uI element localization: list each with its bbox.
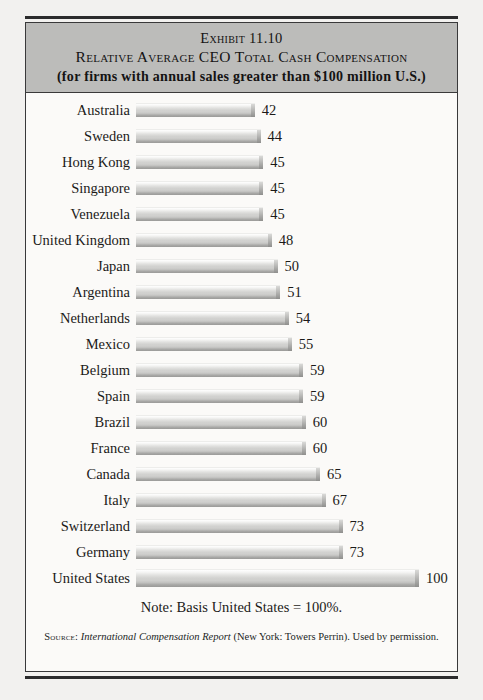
bar (136, 441, 306, 455)
bar-value-label: 44 (261, 124, 283, 148)
bar (136, 285, 280, 299)
bar-category-label: Switzerland (26, 514, 130, 538)
bar-row: Mexico55 (26, 332, 457, 356)
bar-row: Japan50 (26, 254, 457, 278)
bar-row: Canada65 (26, 462, 457, 486)
source-publisher: (New York: Towers Perrin). Used by permi… (233, 631, 438, 642)
bar-value-label: 73 (343, 540, 365, 564)
bar-value-label: 51 (280, 280, 302, 304)
bar-value-label: 59 (303, 384, 325, 408)
exhibit-title: Relative Average CEO Total Cash Compensa… (26, 47, 457, 66)
exhibit-number: Exhibit 11.10 (26, 29, 457, 47)
bar-row: Venezuela45 (26, 202, 457, 226)
bar-row: France60 (26, 436, 457, 460)
exhibit-title-band: Exhibit 11.10 Relative Average CEO Total… (26, 23, 457, 93)
bottom-rule (25, 676, 458, 679)
bar-row: Brazil60 (26, 410, 457, 434)
bar (136, 155, 263, 169)
bar-category-label: Japan (26, 254, 130, 278)
bar-row: Argentina51 (26, 280, 457, 304)
bar-row: Belgium59 (26, 358, 457, 382)
bar-value-label: 45 (263, 150, 285, 174)
top-rule (25, 16, 458, 19)
bar-category-label: United Kingdom (26, 228, 130, 252)
bar-value-label: 60 (306, 436, 328, 460)
bar-value-label: 50 (278, 254, 300, 278)
bar-row: Netherlands54 (26, 306, 457, 330)
bar (136, 467, 320, 481)
bar-row: Hong Kong45 (26, 150, 457, 174)
bar-value-label: 48 (272, 228, 294, 252)
bar-row: Switzerland73 (26, 514, 457, 538)
exhibit-frame: Exhibit 11.10 Relative Average CEO Total… (25, 22, 458, 672)
bar-value-label: 100 (419, 566, 448, 590)
bar-row: Sweden44 (26, 124, 457, 148)
source-line: Source: International Compensation Repor… (26, 631, 457, 642)
bar-value-label: 59 (303, 358, 325, 382)
bar-category-label: Netherlands (26, 306, 130, 330)
exhibit-subtitle: (for firms with annual sales greater tha… (26, 67, 457, 86)
bar (136, 181, 263, 195)
bar-value-label: 55 (292, 332, 314, 356)
bar-category-label: Spain (26, 384, 130, 408)
bar (136, 569, 419, 587)
bar-row: Italy67 (26, 488, 457, 512)
bar-category-label: Italy (26, 488, 130, 512)
bar-value-label: 65 (320, 462, 342, 486)
bar-value-label: 42 (255, 98, 277, 122)
source-report-title: International Compensation Report (81, 631, 231, 642)
bar-value-label: 45 (263, 202, 285, 226)
bar-category-label: Brazil (26, 410, 130, 434)
bar (136, 519, 343, 533)
bar-category-label: Hong Kong (26, 150, 130, 174)
bar-category-label: Germany (26, 540, 130, 564)
bar-category-label: United States (26, 566, 130, 590)
bar (136, 207, 263, 221)
chart-note: Note: Basis United States = 100%. (26, 599, 457, 616)
bar-category-label: Australia (26, 98, 130, 122)
bar-category-label: Sweden (26, 124, 130, 148)
bar-value-label: 45 (263, 176, 285, 200)
bar-row: Spain59 (26, 384, 457, 408)
bar-value-label: 54 (289, 306, 311, 330)
bar (136, 233, 272, 247)
bar-category-label: Singapore (26, 176, 130, 200)
bar-category-label: Belgium (26, 358, 130, 382)
bar-row: United States100 (26, 566, 457, 590)
source-label: Source: (44, 631, 78, 642)
bar-value-label: 60 (306, 410, 328, 434)
bar-chart-plot-area: Australia42Sweden44Hong Kong45Singapore4… (26, 94, 457, 594)
bar (136, 415, 306, 429)
bar (136, 389, 303, 403)
bar-category-label: France (26, 436, 130, 460)
bar (136, 311, 289, 325)
bar (136, 337, 292, 351)
bar (136, 129, 261, 143)
bar-category-label: Argentina (26, 280, 130, 304)
bar (136, 363, 303, 377)
bar (136, 493, 326, 507)
bar-row: Singapore45 (26, 176, 457, 200)
bar (136, 103, 255, 117)
bar-value-label: 67 (326, 488, 348, 512)
bar (136, 259, 278, 273)
bar-value-label: 73 (343, 514, 365, 538)
bar-row: United Kingdom48 (26, 228, 457, 252)
bar-row: Germany73 (26, 540, 457, 564)
bar-row: Australia42 (26, 98, 457, 122)
bar-category-label: Venezuela (26, 202, 130, 226)
bar-category-label: Mexico (26, 332, 130, 356)
bar (136, 545, 343, 559)
bar-category-label: Canada (26, 462, 130, 486)
